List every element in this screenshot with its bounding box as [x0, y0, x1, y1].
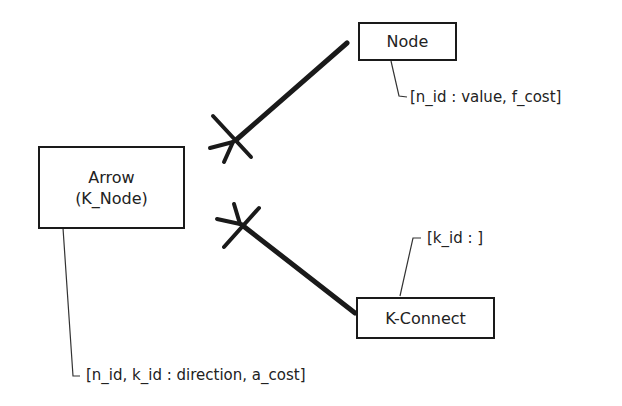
leader-line-node	[391, 61, 407, 97]
entity-title: K-Connect	[385, 308, 466, 329]
crows-foot-prong	[217, 219, 240, 224]
entity-subtitle: (K_Node)	[75, 188, 148, 209]
kconnect-attributes-label: [k_id : ]	[427, 229, 483, 247]
mandatory-bar	[224, 208, 259, 247]
connector-line	[236, 43, 347, 140]
entity-title: Node	[387, 31, 429, 52]
entity-title: Arrow	[88, 167, 134, 188]
arrow-attributes-label: [n_id, k_id : direction, a_cost]	[86, 366, 306, 384]
entity-arrow-knode[interactable]: Arrow (K_Node)	[38, 146, 185, 229]
node-attributes-label: [n_id : value, f_cost]	[410, 88, 561, 106]
entity-k-connect[interactable]: K-Connect	[356, 297, 495, 339]
connector-line	[242, 225, 355, 313]
relationship-arrow-kconnect	[217, 204, 355, 313]
entity-node[interactable]: Node	[358, 22, 457, 61]
leader-line-arrow	[63, 228, 80, 376]
relationship-arrow-node	[210, 43, 347, 162]
mandatory-bar	[213, 116, 251, 157]
leader-line-kconnect	[400, 238, 421, 296]
